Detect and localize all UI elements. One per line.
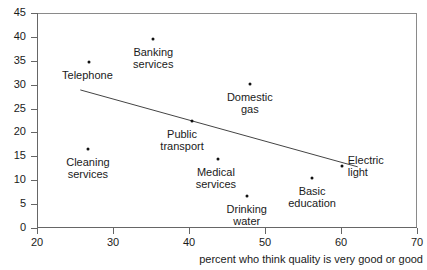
x-axis-tick — [189, 228, 190, 234]
y-axis-tick — [31, 85, 37, 86]
y-axis-tick — [31, 204, 37, 205]
data-point — [340, 165, 343, 168]
data-point-label: Banking services — [133, 46, 173, 70]
y-axis-tick — [31, 13, 37, 14]
x-axis-tick — [265, 228, 266, 234]
x-axis-tick-label: 70 — [411, 237, 423, 248]
y-axis-tick — [31, 109, 37, 110]
data-point — [86, 147, 89, 150]
y-axis-tick — [31, 156, 37, 157]
y-axis-tick — [31, 132, 37, 133]
x-axis-tick — [341, 228, 342, 234]
data-point-label: Drinking water — [227, 203, 267, 227]
data-point — [88, 60, 91, 63]
data-point — [191, 120, 194, 123]
x-axis-tick-label: 30 — [107, 237, 119, 248]
scatter-chart: 051015202530354045 203040506070 Banking … — [0, 0, 427, 270]
x-axis-tick-label: 60 — [335, 237, 347, 248]
y-axis-tick-label: 35 — [14, 55, 26, 66]
plot-area — [37, 13, 417, 228]
data-point — [216, 158, 219, 161]
y-axis-tick-label: 30 — [14, 79, 26, 90]
y-axis-tick-label: 10 — [14, 174, 26, 185]
data-point-label: Cleaning services — [66, 156, 109, 180]
y-axis-tick-label: 45 — [14, 7, 26, 18]
data-point-label: Telephone — [62, 69, 113, 81]
x-axis-title: percent who think quality is very good o… — [0, 253, 427, 265]
x-axis-tick — [417, 228, 418, 234]
data-point-label: Domestic gas — [227, 91, 273, 115]
y-axis-tick — [31, 61, 37, 62]
y-axis-tick — [31, 37, 37, 38]
x-axis-tick-label: 50 — [259, 237, 271, 248]
data-point-label: Electric light — [348, 154, 384, 178]
y-axis-tick-label: 0 — [20, 222, 26, 233]
x-axis-tick-label: 40 — [183, 237, 195, 248]
x-axis-tick — [37, 228, 38, 234]
data-point — [245, 194, 248, 197]
x-axis-tick-label: 20 — [31, 237, 43, 248]
y-axis-tick-label: 5 — [20, 198, 26, 209]
y-axis-tick-label: 40 — [14, 31, 26, 42]
data-point-label: Medical services — [196, 166, 236, 190]
data-point — [152, 37, 155, 40]
y-axis-tick-label: 20 — [14, 126, 26, 137]
data-point — [311, 176, 314, 179]
y-axis-tick-label: 15 — [14, 150, 26, 161]
data-point — [248, 83, 251, 86]
y-axis-tick — [31, 180, 37, 181]
x-axis-tick — [113, 228, 114, 234]
y-axis-tick-label: 25 — [14, 103, 26, 114]
data-point-label: Public transport — [160, 128, 203, 152]
data-point-label: Basic education — [288, 185, 336, 209]
